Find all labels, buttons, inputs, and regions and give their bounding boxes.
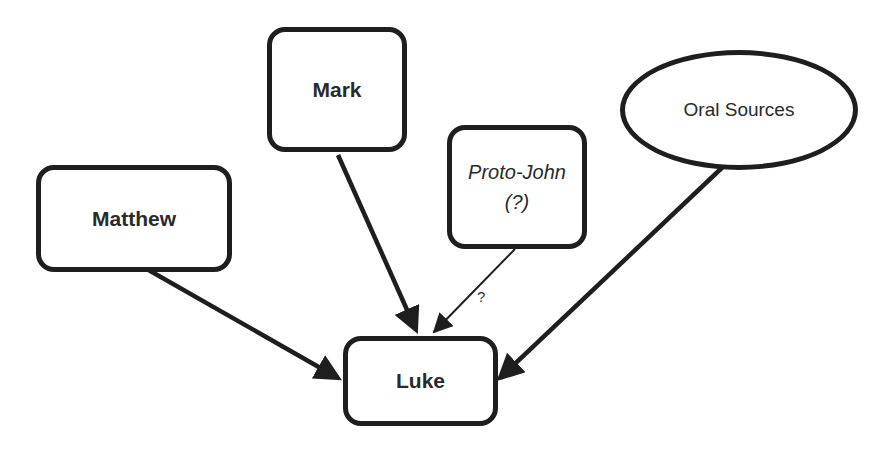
node-label: Luke: [396, 369, 445, 393]
node-label: Matthew: [92, 207, 176, 231]
node-label: Mark: [312, 78, 361, 102]
node-luke: Luke: [343, 336, 498, 426]
node-proto-john: Proto-John (?): [447, 125, 587, 249]
node-label-line2: (?): [505, 187, 529, 217]
edge-protojohn-luke: [434, 249, 515, 332]
node-mark: Mark: [267, 27, 407, 152]
node-label: Oral Sources: [684, 99, 795, 121]
node-matthew: Matthew: [36, 165, 232, 272]
edge-mark-luke: [338, 155, 416, 330]
node-oral-sources: Oral Sources: [620, 50, 858, 170]
edge-matthew-luke: [145, 268, 338, 378]
node-label-line1: Proto-John: [468, 157, 566, 187]
edge-label-uncertain: ?: [477, 288, 485, 305]
